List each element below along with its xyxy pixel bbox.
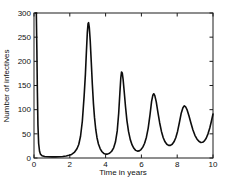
x-tick-label: 0: [32, 160, 37, 169]
sir-model-figure: 0246810050100150200250300 Time in years …: [0, 0, 230, 188]
y-tick-label: 50: [22, 130, 31, 139]
y-tick-label: 150: [18, 81, 32, 90]
y-tick-label: 0: [27, 154, 32, 163]
y-tick-label: 300: [18, 9, 32, 18]
x-tick-label: 10: [209, 160, 218, 169]
x-tick-label: 8: [175, 160, 180, 169]
y-tick-label: 100: [18, 105, 32, 114]
plot-generated: 0246810050100150200250300: [18, 9, 218, 169]
y-axis-label: Number of infectives: [2, 50, 11, 123]
x-tick-label: 2: [68, 160, 73, 169]
y-tick-label: 200: [18, 57, 32, 66]
infectives-curve: [36, 13, 213, 157]
x-axis-label: Time in years: [99, 168, 147, 177]
plot-svg: 0246810050100150200250300 Time in years …: [0, 0, 230, 188]
y-tick-label: 250: [18, 33, 32, 42]
